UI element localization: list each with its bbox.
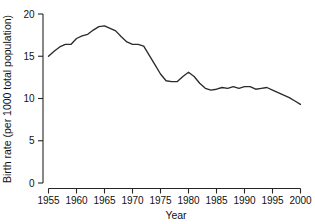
x-axis-tick-label: 1985 — [205, 195, 228, 206]
x-axis-tick-label: 2000 — [289, 195, 312, 206]
data-series-group — [49, 26, 301, 105]
x-axis-tick-label: 1965 — [93, 195, 116, 206]
data-line-birth-rate — [49, 26, 301, 105]
y-axis-tick-label: 5 — [29, 135, 35, 146]
x-axis-tick-label: 1980 — [177, 195, 200, 206]
x-axis: 1955196019651970197519801985199019952000 — [37, 189, 312, 207]
x-axis-tick-label: 1995 — [261, 195, 284, 206]
y-axis-tick-label: 10 — [23, 93, 35, 104]
x-axis-tick-label: 1990 — [233, 195, 256, 206]
x-axis-tick-label: 1970 — [121, 195, 144, 206]
y-axis: 05101520 — [23, 9, 43, 189]
x-axis-tick-label: 1955 — [37, 195, 60, 206]
y-axis-tick-label: 0 — [29, 178, 35, 189]
chart-canvas: 05101520 1955196019651970197519801985199… — [0, 0, 315, 224]
x-axis-tick-label: 1960 — [65, 195, 88, 206]
birth-rate-chart: 05101520 1955196019651970197519801985199… — [0, 0, 315, 224]
x-axis-title: Year — [165, 209, 187, 221]
y-axis-tick-label: 15 — [23, 51, 35, 62]
x-axis-tick-label: 1975 — [149, 195, 172, 206]
y-axis-title: Birth rate (per 1000 total population) — [1, 15, 13, 183]
y-axis-tick-label: 20 — [23, 9, 35, 20]
